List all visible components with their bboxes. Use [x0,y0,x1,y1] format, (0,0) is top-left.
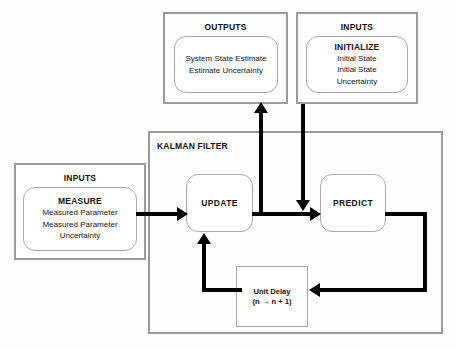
connector-unitdelay-to-update-arrowhead [197,233,211,244]
kalman-filter-diagram: OUTPUTS System State Estimate Estimate U… [0,0,456,349]
kalman-filter-title: KALMAN FILTER [157,141,228,151]
connector-initialize-to-predict-line [301,104,305,202]
measure-line-3: Uncertainty [60,230,100,242]
initialize-block-title: INITIALIZE [335,42,380,52]
outputs-block: System State Estimate Estimate Uncertain… [174,36,278,93]
measure-line-1: Measured Parameter [42,207,117,219]
initialize-line-2: Initial State [337,64,377,76]
measure-block-title: MEASURE [58,196,102,206]
outputs-group-title: OUTPUTS [163,22,288,32]
connector-update-to-outputs-arrowhead [254,102,268,113]
unit-delay-expression: (n→n + 1) [252,297,291,306]
update-block-label: UPDATE [201,198,238,208]
inputs-measure-group-title: INPUTS [14,173,146,183]
initialize-block: INITIALIZE Initial State Initial State U… [306,36,408,93]
connector-predict-to-unitdelay-top-line [385,212,427,216]
connector-predict-to-unitdelay-arrowhead [309,283,320,297]
connector-update-to-predict-arrowhead [310,207,321,221]
connector-unitdelay-to-update-bottom-line [202,288,242,292]
unit-delay-expr-right: n + 1) [272,297,292,306]
connector-measure-to-update-arrowhead [177,207,188,221]
connector-unitdelay-to-update-vertical-line [202,243,206,292]
right-arrow-icon: → [260,297,272,306]
predict-block-label: PREDICT [333,198,373,208]
unit-delay-expr-left: (n [252,297,259,306]
outputs-line-2: Estimate Uncertainty [189,65,263,77]
predict-block: PREDICT [320,174,386,232]
connector-predict-to-unitdelay-bottom-line [320,288,427,292]
initialize-line-1: Initial State [337,53,377,65]
outputs-line-1: System State Estimate [186,53,267,65]
measure-line-2: Measured Parameter [42,219,117,231]
update-block: UPDATE [186,174,253,232]
connector-predict-to-unitdelay-vertical-line [423,212,427,292]
unit-delay-title: Unit Delay [253,287,290,296]
initialize-line-3: Uncertainty [337,76,377,88]
connector-update-to-outputs-line [259,112,263,216]
unit-delay-block: Unit Delay (n→n + 1) [236,266,308,327]
connector-initialize-to-predict-arrowhead [296,200,310,211]
inputs-initialize-group-title: INPUTS [296,22,418,32]
measure-block: MEASURE Measured Parameter Measured Para… [23,187,137,251]
connector-measure-to-update-line [136,212,179,216]
